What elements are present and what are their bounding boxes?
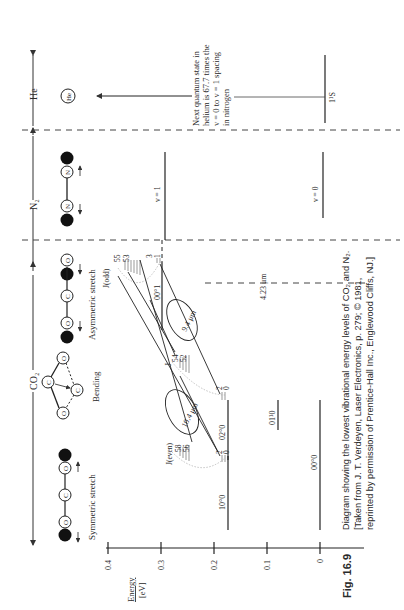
he-atom-label: He <box>65 93 73 101</box>
label-02-0: 02°0 <box>218 425 227 440</box>
svg-text:0.1: 0.1 <box>263 560 272 570</box>
co2-symmetric-molecule: O C O <box>59 449 79 543</box>
transition-4-23-label: 4.23 μm <box>259 273 268 300</box>
species-n2: N₂ <box>28 199 39 210</box>
label-00-1: 00°1 <box>153 285 162 300</box>
svg-text:O: O <box>60 356 68 361</box>
co2-asymmetric-molecule: O C O <box>61 254 81 344</box>
mode-symmetric-label: Symmetric stretch <box>87 474 97 540</box>
mode-bending-label: Bending <box>91 371 101 402</box>
energy-axis <box>106 542 364 554</box>
n2-v0-label: v = 0 <box>311 186 320 202</box>
svg-text:0: 0 <box>316 559 325 563</box>
svg-text:O: O <box>62 520 70 525</box>
label-10-0: 10°0 <box>218 495 227 510</box>
svg-text:0.2: 0.2 <box>210 560 219 570</box>
svg-text:C: C <box>62 493 70 498</box>
svg-text:C: C <box>74 388 82 393</box>
energy-axis-label: Energy [eV] <box>126 577 147 602</box>
svg-text:Diagram showing the lowest vib: Diagram showing the lowest vibrational e… <box>341 251 351 530</box>
figure-caption: Diagram showing the lowest vibrational e… <box>341 251 375 530</box>
svg-text:52: 52 <box>179 354 188 362</box>
svg-text:O: O <box>60 411 68 416</box>
figure-number: Fig. 16.9 <box>341 554 353 598</box>
svg-text:[eV]: [eV] <box>137 582 147 598</box>
energy-level-diagram: He N₂ CO₂ He Next quantum state in heliu… <box>0 0 404 610</box>
helium-atom: He <box>61 89 75 103</box>
svg-text:helium is 67.7 times the: helium is 67.7 times the <box>201 44 211 126</box>
svg-text:0: 0 <box>222 450 231 454</box>
svg-text:v = 0 to v = 1 spacing: v = 0 to v = 1 spacing <box>211 51 221 126</box>
svg-text:[Taken from J. T. Verdeyen, La: [Taken from J. T. Verdeyen, Laser Electr… <box>353 278 363 530</box>
svg-text:C: C <box>45 380 53 385</box>
svg-text:reprinted by permission of Pre: reprinted by permission of Prentice-Hall… <box>365 257 375 530</box>
svg-text:0.3: 0.3 <box>157 560 166 570</box>
species-co2: CO₂ <box>28 373 39 390</box>
label-00-0: 00°0 <box>310 455 319 470</box>
n2-molecule: N N <box>61 152 81 227</box>
he-annotation: Next quantum state in helium is 67.7 tim… <box>191 44 231 126</box>
svg-text:in nitrogen: in nitrogen <box>221 88 231 126</box>
transition-lines <box>118 260 220 456</box>
he-1s-label: 1¹S <box>328 92 337 103</box>
svg-text:N: N <box>64 170 72 175</box>
svg-text:J(even): J(even) <box>165 442 174 465</box>
svg-text:0: 0 <box>222 386 231 390</box>
svg-text:O: O <box>62 466 70 471</box>
svg-text:O: O <box>64 321 72 326</box>
mode-asymmetric-label: Asymmetric stretch <box>87 269 97 340</box>
svg-text:56: 56 <box>182 444 191 452</box>
svg-text:55: 55 <box>113 254 122 262</box>
rotational-labels: J(odd) 55 53 3 1 J 54 52 2 0 J(even) 58 … <box>102 254 231 465</box>
energy-axis-ticks: 0.4 0.3 0.2 0.1 0 <box>104 559 325 570</box>
n2-v1-label: v = 1 <box>153 186 162 202</box>
svg-text:N: N <box>64 204 72 209</box>
svg-text:Energy: Energy <box>126 577 136 602</box>
svg-text:C: C <box>64 294 72 299</box>
svg-text:J(odd): J(odd) <box>102 268 111 288</box>
svg-text:1: 1 <box>153 254 162 258</box>
svg-text:O: O <box>64 258 72 263</box>
svg-text:0.4: 0.4 <box>104 560 113 570</box>
species-he: He <box>28 88 39 100</box>
svg-text:Next quantum state in: Next quantum state in <box>191 50 201 126</box>
svg-text:53: 53 <box>122 254 131 262</box>
label-01-0: 01¹0 <box>268 411 277 425</box>
